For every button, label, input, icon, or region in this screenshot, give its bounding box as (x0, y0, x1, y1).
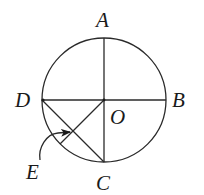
radius-oe (60, 100, 104, 144)
label-c: C (96, 171, 111, 195)
label-o: O (110, 105, 125, 129)
label-d: D (14, 88, 30, 112)
circle-geometry-diagram: A B C D O E (0, 0, 204, 195)
point-o-dot (103, 99, 106, 102)
label-b: B (172, 88, 185, 112)
label-e: E (25, 160, 39, 184)
e-pointer-arrow-icon (40, 132, 70, 160)
label-a: A (94, 8, 109, 32)
point-d-dot (41, 98, 44, 101)
